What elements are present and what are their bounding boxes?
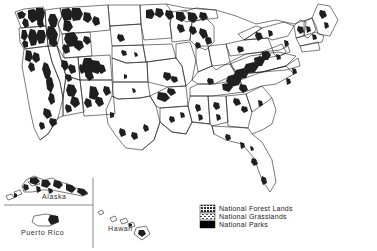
us-map-graphic [0,0,377,251]
legend-item-park: National Parks [199,221,311,229]
legend-label-grassland: National Grasslands [219,213,287,221]
state-boundaries [14,4,338,192]
puerto-rico-inset-label: Puerto Rico [21,229,64,236]
puerto-rico-protected-lands [48,215,59,225]
map-figure: Alaska Puerto Rico Hawaii National Fores… [0,0,377,251]
alaska-inset-label: Alaska [42,193,67,200]
map-legend: National Forest Lands National Grassland… [199,205,311,229]
legend-item-grassland: National Grasslands [199,213,311,221]
legend-label-forest: National Forest Lands [219,205,293,213]
legend-item-forest: National Forest Lands [199,205,311,213]
legend-label-park: National Parks [219,221,268,229]
hawaii-inset-label: Hawaii [108,225,133,232]
protected-lands-overlay [17,8,329,185]
